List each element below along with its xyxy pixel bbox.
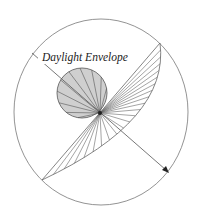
daylight-envelope-diagram: Daylight Envelope: [0, 0, 199, 218]
origin-point: [98, 111, 102, 115]
daylight-envelope-label: Daylight Envelope: [41, 51, 128, 64]
diagram-canvas: Daylight Envelope: [0, 0, 199, 218]
